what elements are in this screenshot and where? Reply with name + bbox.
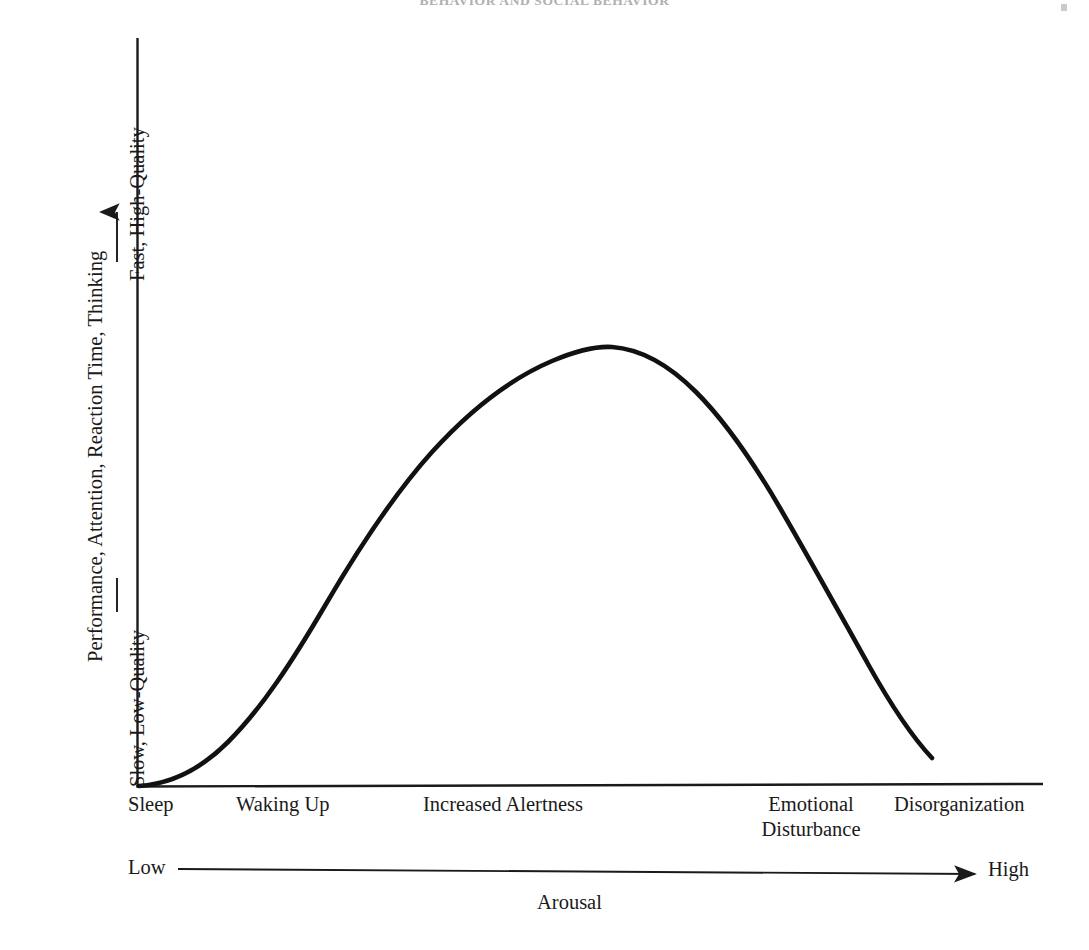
arousal-low-label: Low xyxy=(128,856,166,879)
arousal-high-label: High xyxy=(988,858,1029,881)
arousal-axis-arrow xyxy=(178,869,975,874)
x-axis-line xyxy=(136,784,1043,787)
x-tick-label-emotional-disturbance: Emotional Disturbance xyxy=(743,792,879,842)
performance-curve xyxy=(139,347,932,786)
plot-axes xyxy=(136,38,1043,787)
y-axis-top-label: Fast, High-Quality xyxy=(126,127,149,281)
x-tick-label-increased-alertness: Increased Alertness xyxy=(423,792,583,817)
x-axis-title: Arousal xyxy=(537,891,602,914)
x-tick-label-disorganization: Disorganization xyxy=(894,792,1025,817)
y-axis-bottom-label: Slow, Low-Quality xyxy=(126,630,149,787)
y-axis-title: Performance, Attention, Reaction Time, T… xyxy=(84,251,107,662)
x-tick-label-sleep: Sleep xyxy=(128,792,174,817)
x-tick-label-waking-up: Waking Up xyxy=(236,792,329,817)
figure-page: BEHAVIOR AND SOCIAL BEHAVIOR Performance… xyxy=(0,0,1089,950)
